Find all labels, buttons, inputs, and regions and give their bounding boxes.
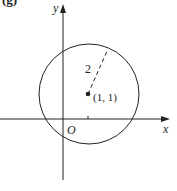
x-axis-label: x	[162, 122, 169, 136]
circle-diagram: (g) x y O 2 (1, 1)	[0, 0, 177, 191]
y-axis-arrow-icon	[60, 4, 66, 13]
radius-label: 2	[85, 62, 91, 76]
origin-label: O	[67, 123, 76, 137]
center-point	[86, 92, 91, 97]
panel-label: (g)	[2, 0, 17, 7]
y-axis-label: y	[52, 1, 59, 15]
center-label: (1, 1)	[93, 91, 117, 104]
radius-line	[88, 49, 108, 94]
